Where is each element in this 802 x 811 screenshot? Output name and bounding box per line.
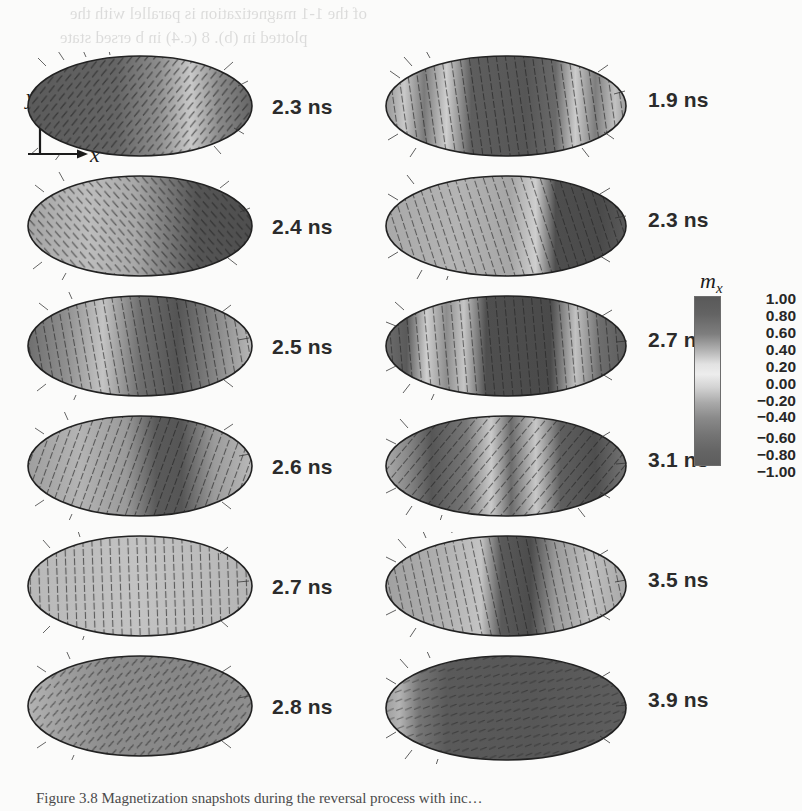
time-label-l5: 2.7 ns [272, 575, 333, 599]
panel-l5 [24, 532, 256, 640]
panel-r6 [382, 652, 630, 764]
time-label-r1: 1.9 ns [648, 88, 709, 112]
time-label-l6: 2.8 ns [272, 695, 333, 719]
time-label-r6: 3.9 ns [648, 688, 709, 712]
colorbar-tick-labels: 1.00 0.80 0.60 0.40 0.20 0.00 −0.20 −0.4… [728, 291, 800, 471]
time-label-l4: 2.6 ns [272, 455, 333, 479]
colorbar-tick-10: −1.00 [757, 464, 796, 480]
figure-caption: Figure 3.8 Magnetization snapshots durin… [36, 790, 776, 807]
colorbar-tick-1: 0.80 [766, 308, 796, 324]
panel-r2 [382, 172, 630, 280]
colorbar-title-symbol: m [700, 268, 716, 293]
panel-r5 [382, 532, 630, 640]
colorbar-tick-9: −0.80 [757, 447, 796, 463]
time-label-l1: 2.3 ns [272, 95, 333, 119]
colorbar-tick-3: 0.40 [766, 342, 796, 358]
panel-l4 [24, 412, 256, 520]
time-label-l3: 2.5 ns [272, 335, 333, 359]
panel-r3 [382, 292, 630, 400]
colorbar-gradient [694, 296, 721, 466]
colorbar-tick-0: 1.00 [766, 291, 796, 307]
colorbar-tick-2: 0.60 [766, 325, 796, 341]
colorbar-tick-8: −0.60 [757, 430, 796, 446]
panel-l3 [24, 292, 256, 400]
time-label-r5: 3.5 ns [648, 568, 709, 592]
time-label-l2: 2.4 ns [272, 215, 333, 239]
panel-l1 [24, 52, 256, 160]
colorbar-tick-4: 0.20 [766, 359, 796, 375]
colorbar-title-subscript: x [716, 280, 723, 296]
colorbar-legend: mx 1.00 0.80 0.60 0.40 0.20 0.00 −0.20 −… [676, 268, 802, 473]
colorbar-tick-5: 0.00 [766, 376, 796, 392]
colorbar-tick-7: −0.40 [757, 409, 796, 425]
colorbar-tick-6: −0.20 [757, 393, 796, 409]
panel-r4 [382, 412, 630, 520]
time-label-r2: 2.3 ns [648, 208, 709, 232]
panel-l6 [24, 652, 256, 760]
colorbar-title: mx [700, 268, 723, 297]
magnetization-figure: y x [0, 0, 802, 811]
panel-l2 [24, 172, 256, 280]
panel-r1 [382, 52, 630, 160]
